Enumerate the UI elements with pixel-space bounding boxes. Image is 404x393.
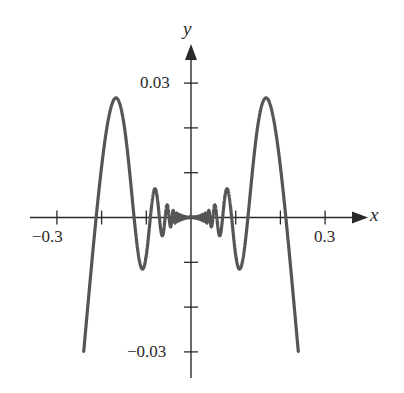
x-axis-label: x [370, 204, 378, 226]
y-axis-arrow-icon [185, 44, 197, 60]
x-tick-label-right: 0.3 [314, 227, 335, 247]
y-axis-label: y [183, 18, 191, 40]
y-tick-label-top: 0.03 [140, 73, 170, 93]
y-tick-label-bottom: −0.03 [127, 342, 166, 362]
chart-plot-area [0, 0, 404, 393]
axes [30, 44, 368, 378]
x-axis-arrow-icon [352, 212, 368, 224]
x-tick-label-left: −0.3 [32, 227, 63, 247]
